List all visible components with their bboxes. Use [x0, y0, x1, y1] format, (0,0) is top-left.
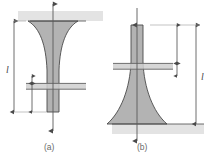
caption-b: (b) — [137, 142, 148, 152]
figure-container: l (a) l (b) — [0, 0, 211, 168]
surface-band-a — [18, 11, 103, 21]
dimension-label-a-length: l — [6, 64, 9, 75]
caption-a: (a) — [44, 142, 55, 152]
panel-b: l (b) — [107, 8, 204, 152]
surface-band-b — [112, 124, 204, 134]
cross-section-band-a — [26, 83, 86, 90]
dimension-label-b-length: l — [201, 71, 204, 82]
panel-a: l (a) — [6, 4, 103, 152]
cross-section-band-b — [113, 63, 173, 70]
technical-diagram: l (a) l (b) — [0, 0, 211, 168]
